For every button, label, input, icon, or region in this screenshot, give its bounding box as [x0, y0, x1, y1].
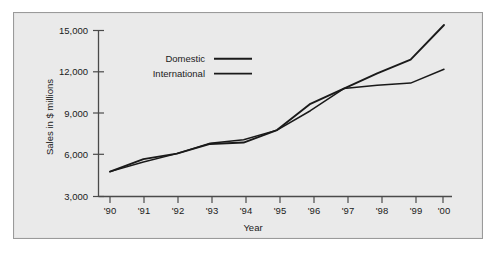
figure-container: 15,000 12,000 9,000 6,000 3,000 Sales in…	[0, 0, 498, 253]
chart-frame	[13, 12, 483, 239]
